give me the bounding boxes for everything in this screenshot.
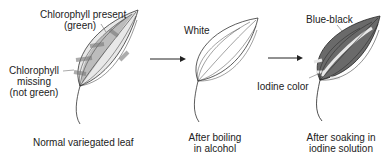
label-line: Chlorophyll present [40,9,120,20]
caption-line: in alcohol [180,143,250,154]
label-line: (green) [40,20,120,31]
caption-line: After soaking in [300,132,382,143]
caption-after-boiling: After boiling in alcohol [180,132,250,154]
chlorophyll-missing-label: Chlorophyll missing (not green) [4,65,64,98]
iodine-stained-leaf [309,16,380,121]
chlorophyll-present-label: Chlorophyll present (green) [40,9,120,31]
blue-black-label: Blue-black [306,14,353,25]
label-line: (not green) [4,87,64,98]
white-label: White [184,25,210,36]
caption-line: iodine solution [300,143,382,154]
caption-after-soaking: After soaking in iodine solution [300,132,382,154]
label-line: Chlorophyll [4,65,64,76]
caption-normal-leaf: Normal variegated leaf [33,137,134,148]
arrow-right-icon [150,56,186,62]
label-line: missing [4,76,64,87]
arrow-right-icon [268,55,303,61]
iodine-color-label: Iodine color [257,81,309,92]
caption-line: After boiling [180,132,250,143]
